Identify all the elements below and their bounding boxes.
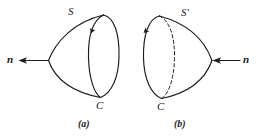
panel-b-caption: (b) — [174, 119, 186, 129]
panel-b-surface-prime-mark: ′ — [187, 6, 189, 18]
panel-b-graphics — [143, 16, 240, 99]
panel-a-graphics — [19, 15, 120, 98]
panel-b-rim-far-arc-dashed — [160, 16, 175, 99]
panel-b-boundary-label: C — [157, 101, 164, 112]
panel-b-surface-label-group: S′ — [181, 7, 189, 18]
panel-b-rim-near-arc — [143, 16, 161, 99]
figure-drawing — [0, 0, 261, 139]
panel-b-surface-upper-edge — [160, 16, 213, 61]
panel-a-rim-near-arc — [88, 15, 103, 98]
panel-a-caption: (a) — [78, 119, 90, 129]
figure-container: S C n (a) S′ C n (b) — [0, 0, 261, 139]
panel-a-rim-far-arc — [101, 15, 120, 98]
panel-b-normal-label: n — [243, 54, 249, 65]
panel-b-orientation-arrowhead — [144, 28, 150, 33]
panel-a-surface-lower-edge — [49, 61, 101, 98]
panel-a-surface-label: S — [68, 6, 74, 17]
panel-b-surface-lower-edge — [162, 61, 213, 99]
panel-a-normal-label: n — [7, 54, 13, 65]
panel-a-boundary-label: C — [96, 100, 103, 111]
